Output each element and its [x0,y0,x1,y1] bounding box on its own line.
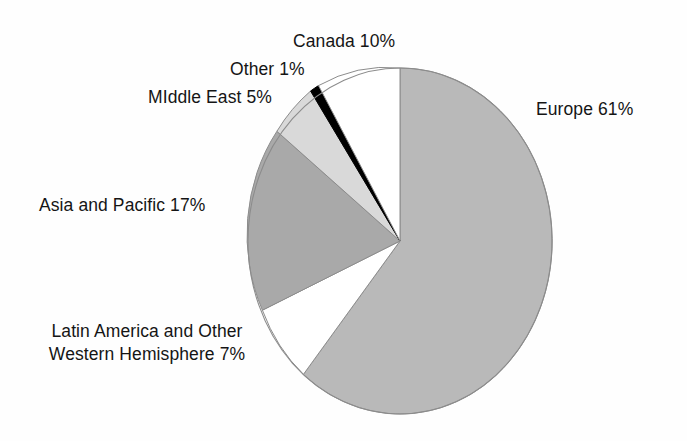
pie-label-europe: Europe 61% [536,98,633,121]
pie-label-latin-america: Latin America and Other Western Hemisphe… [22,320,272,366]
pie-chart-graphic [0,0,687,441]
pie-label-other: Other 1% [230,58,305,81]
pie-label-latin-america-line1: Latin America and Other [22,320,272,343]
pie-label-asia-pacific: Asia and Pacific 17% [39,194,205,217]
pie-label-middle-east: MIddle East 5% [148,86,272,109]
pie-chart-figure: Canada 10% Other 1% MIddle East 5% Europ… [0,0,687,441]
pie-label-canada: Canada 10% [293,30,395,53]
pie-label-latin-america-line2: Western Hemisphere 7% [22,343,272,366]
